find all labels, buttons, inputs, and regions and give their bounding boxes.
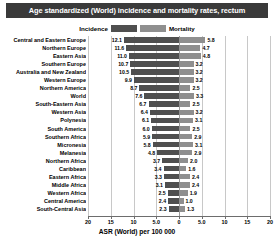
value-incidence: 6.0 bbox=[130, 125, 150, 133]
bar-incidence bbox=[124, 37, 179, 43]
bar-mortality bbox=[179, 61, 194, 67]
row-label-northern-africa: Northern Africa bbox=[2, 157, 86, 165]
value-incidence: 3.4 bbox=[142, 165, 162, 173]
row-label-eastern-africa: Eastern Africa bbox=[2, 173, 86, 181]
value-mortality: 3.1 bbox=[195, 141, 215, 149]
value-mortality: 1.6 bbox=[188, 165, 208, 173]
chart-row: Western Africa2.51.9 bbox=[0, 189, 274, 197]
chart-row: South-Central Asia2.31.3 bbox=[0, 205, 274, 213]
bar-mortality bbox=[179, 158, 188, 164]
row-label-caribbean: Caribbean bbox=[2, 165, 86, 173]
bar-mortality bbox=[179, 198, 184, 204]
chart-legend: Incidence Mortality bbox=[0, 23, 274, 34]
value-mortality: 3.2 bbox=[196, 108, 216, 116]
bar-incidence bbox=[150, 110, 179, 116]
row-label-south-eastern-asia: South-Eastern Asia bbox=[2, 100, 86, 108]
value-mortality: 3.2 bbox=[196, 68, 216, 76]
value-incidence: 11.6 bbox=[104, 44, 124, 52]
row-label-southern-europe: Southern Europe bbox=[2, 60, 86, 68]
chart-row: World7.63.3 bbox=[0, 92, 274, 100]
legend-label-mortality: Mortality bbox=[169, 25, 195, 32]
value-incidence: 8.7 bbox=[117, 84, 137, 92]
row-label-southern-africa: Southern Africa bbox=[2, 133, 86, 141]
chart-row: South America6.02.5 bbox=[0, 125, 274, 133]
bar-incidence bbox=[144, 93, 179, 99]
value-mortality: 4.8 bbox=[203, 52, 223, 60]
row-label-polynesia: Polynesia bbox=[2, 116, 86, 124]
value-mortality: 2.0 bbox=[190, 157, 210, 165]
bar-mortality bbox=[179, 85, 190, 91]
bar-incidence bbox=[153, 142, 179, 148]
bar-mortality bbox=[179, 190, 188, 196]
value-incidence: 5.9 bbox=[130, 133, 150, 141]
bar-mortality bbox=[179, 69, 194, 75]
chart-row: Middle Africa3.12.4 bbox=[0, 181, 274, 189]
row-label-western-africa: Western Africa bbox=[2, 189, 86, 197]
value-mortality: 2.5 bbox=[192, 100, 212, 108]
bar-mortality bbox=[179, 182, 190, 188]
value-mortality: 2.9 bbox=[194, 149, 214, 157]
x-tick-label: 20 bbox=[261, 219, 274, 225]
chart-row: Eastern Asia11.04.8 bbox=[0, 52, 274, 60]
value-incidence: 3.3 bbox=[142, 173, 162, 181]
chart-row: Northern America8.72.5 bbox=[0, 84, 274, 92]
value-incidence: 7.6 bbox=[122, 92, 142, 100]
row-label-northern-europe: Northern Europe bbox=[2, 44, 86, 52]
bar-mortality bbox=[179, 174, 190, 180]
plot-area: Central and Eastern Europe12.15.8Norther… bbox=[0, 36, 274, 216]
chart-row: Central and Eastern Europe12.15.8 bbox=[0, 36, 274, 44]
bar-incidence bbox=[149, 101, 179, 107]
chart-row: Central America2.41.0 bbox=[0, 197, 274, 205]
value-incidence: 3.1 bbox=[143, 181, 163, 189]
value-mortality: 3.2 bbox=[196, 76, 216, 84]
bar-mortality bbox=[179, 45, 200, 51]
x-tick-label: 20 bbox=[79, 219, 97, 225]
value-incidence: 12.1 bbox=[102, 36, 122, 44]
x-tick-label: 15 bbox=[238, 219, 256, 225]
chart-row: Australia and New Zealand10.53.2 bbox=[0, 68, 274, 76]
value-mortality: 1.3 bbox=[187, 205, 207, 213]
row-label-northern-america: Northern America bbox=[2, 84, 86, 92]
row-label-south-america: South America bbox=[2, 125, 86, 133]
chart-title: Age standardized (World) incidence and m… bbox=[6, 3, 268, 18]
value-incidence: 10.7 bbox=[108, 60, 128, 68]
value-incidence: 6.7 bbox=[127, 100, 147, 108]
chart-row: Northern Africa3.72.0 bbox=[0, 157, 274, 165]
x-tick-label: 5.0 bbox=[193, 219, 211, 225]
chart-row: Western Europe9.93.2 bbox=[0, 76, 274, 84]
chart-row: Southern Africa5.92.9 bbox=[0, 133, 274, 141]
row-label-australia-and-new-zealand: Australia and New Zealand bbox=[2, 68, 86, 76]
row-label-eastern-asia: Eastern Asia bbox=[2, 52, 86, 60]
value-mortality: 1.9 bbox=[190, 189, 210, 197]
chart-row: Polynesia6.13.1 bbox=[0, 116, 274, 124]
chart-row: Caribbean3.41.6 bbox=[0, 165, 274, 173]
chart-row: Melanesia4.82.9 bbox=[0, 149, 274, 157]
bar-mortality bbox=[179, 110, 194, 116]
value-incidence: 2.5 bbox=[146, 189, 166, 197]
bar-incidence bbox=[129, 53, 179, 59]
bar-mortality bbox=[179, 206, 185, 212]
chart-row: Western Asia6.43.2 bbox=[0, 108, 274, 116]
bar-incidence bbox=[169, 206, 179, 212]
value-mortality: 3.2 bbox=[196, 60, 216, 68]
bar-incidence bbox=[126, 45, 179, 51]
row-label-western-asia: Western Asia bbox=[2, 108, 86, 116]
bar-incidence bbox=[157, 150, 179, 156]
bar-incidence bbox=[139, 85, 179, 91]
chart-row: Micronesia5.83.1 bbox=[0, 141, 274, 149]
value-incidence: 3.7 bbox=[140, 157, 160, 165]
value-mortality: 5.8 bbox=[207, 36, 227, 44]
value-mortality: 1.0 bbox=[186, 197, 206, 205]
bar-mortality bbox=[179, 53, 201, 59]
bar-mortality bbox=[179, 93, 194, 99]
value-incidence: 5.8 bbox=[131, 141, 151, 149]
bar-incidence bbox=[130, 61, 179, 67]
value-mortality: 4.7 bbox=[202, 44, 222, 52]
bar-mortality bbox=[179, 150, 192, 156]
row-label-central-america: Central America bbox=[2, 197, 86, 205]
value-mortality: 3.3 bbox=[196, 92, 216, 100]
bar-mortality bbox=[179, 166, 186, 172]
bar-incidence bbox=[131, 69, 179, 75]
bar-mortality bbox=[179, 126, 190, 132]
bar-mortality bbox=[179, 77, 194, 83]
